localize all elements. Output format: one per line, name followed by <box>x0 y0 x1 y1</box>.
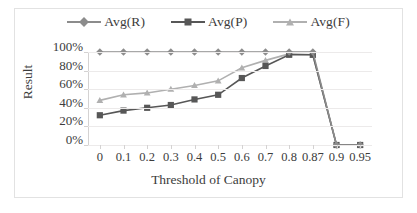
x-axis-tick <box>124 145 125 149</box>
gridline <box>88 89 372 90</box>
legend-item-avg-r: Avg(R) <box>67 14 145 30</box>
gridline <box>88 126 372 127</box>
y-axis-tick <box>84 89 88 90</box>
gridline <box>88 52 372 53</box>
legend-line-avg-f <box>273 21 307 23</box>
y-axis-tick-label: 80% <box>59 57 83 73</box>
x-axis-tick-label: 0.4 <box>187 150 203 165</box>
x-axis-tick-label: 0.5 <box>210 150 226 165</box>
y-axis-tick-label: 20% <box>59 113 83 129</box>
y-axis-tick-label: 60% <box>59 76 83 92</box>
x-axis-tick <box>218 145 219 149</box>
legend-item-avg-f: Avg(F) <box>273 14 349 30</box>
x-axis-labels: 00.10.20.30.40.50.60.70.80.870.90.95 <box>88 150 372 166</box>
x-axis-tick-label: 0.9 <box>329 150 345 165</box>
y-axis-tick <box>84 145 88 146</box>
y-axis-labels: 0%20%40%60%80%100% <box>44 47 86 147</box>
x-axis-title: Threshold of Canopy <box>0 172 417 188</box>
plot-area <box>88 52 372 145</box>
x-axis-tick <box>360 145 361 149</box>
legend-item-avg-p: Avg(P) <box>171 14 247 30</box>
legend-label-avg-r: Avg(R) <box>104 14 145 30</box>
data-point-marker <box>97 112 103 118</box>
x-axis-tick-label: 0 <box>97 150 103 165</box>
x-axis-tick-label: 0.95 <box>349 150 371 165</box>
diamond-marker-icon <box>79 17 89 27</box>
y-axis-tick-label: 100% <box>53 39 83 55</box>
series-line-avgf <box>100 54 360 145</box>
x-axis-tick-label: 0.87 <box>302 150 324 165</box>
legend-label-avg-f: Avg(F) <box>310 14 349 30</box>
data-point-marker <box>262 63 268 69</box>
legend-line-avg-r <box>67 21 101 23</box>
data-point-marker <box>191 96 197 102</box>
chart-legend: Avg(R) Avg(P) Avg(F) <box>0 14 417 30</box>
x-axis-tick-label: 0.1 <box>116 150 132 165</box>
square-marker-icon <box>185 19 192 26</box>
y-axis-tick <box>84 126 88 127</box>
series-layer <box>88 52 372 145</box>
x-axis-tick <box>100 145 101 149</box>
gridline <box>88 108 372 109</box>
triangle-marker-icon <box>286 19 294 26</box>
chart-figure: Avg(R) Avg(P) Avg(F) Result 0%20%40%60%8… <box>0 0 417 213</box>
data-point-marker <box>215 92 221 98</box>
x-axis-tick-label: 0.3 <box>163 150 179 165</box>
x-axis-tick <box>313 145 314 149</box>
x-axis-tick <box>337 145 338 149</box>
series-line-avgp <box>100 55 360 145</box>
x-axis-tick <box>242 145 243 149</box>
y-axis-tick <box>84 52 88 53</box>
x-axis-tick-label: 0.8 <box>281 150 297 165</box>
series-line-avgr <box>100 52 360 145</box>
x-axis-tick <box>195 145 196 149</box>
gridline <box>88 71 372 72</box>
x-axis-tick <box>266 145 267 149</box>
x-axis-tick <box>171 145 172 149</box>
x-axis-tick <box>289 145 290 149</box>
y-axis-title: Result <box>20 52 36 112</box>
y-axis-tick-label: 40% <box>59 94 83 110</box>
gridline <box>88 145 372 146</box>
x-axis-tick <box>147 145 148 149</box>
y-axis-tick-label: 0% <box>66 132 83 148</box>
legend-label-avg-p: Avg(P) <box>208 14 247 30</box>
data-point-marker <box>239 75 245 81</box>
y-axis-tick <box>84 71 88 72</box>
legend-line-avg-p <box>171 21 205 23</box>
x-axis-tick-label: 0.7 <box>258 150 274 165</box>
y-axis-tick <box>84 108 88 109</box>
x-axis-tick-label: 0.2 <box>139 150 155 165</box>
x-axis-tick-label: 0.6 <box>234 150 250 165</box>
